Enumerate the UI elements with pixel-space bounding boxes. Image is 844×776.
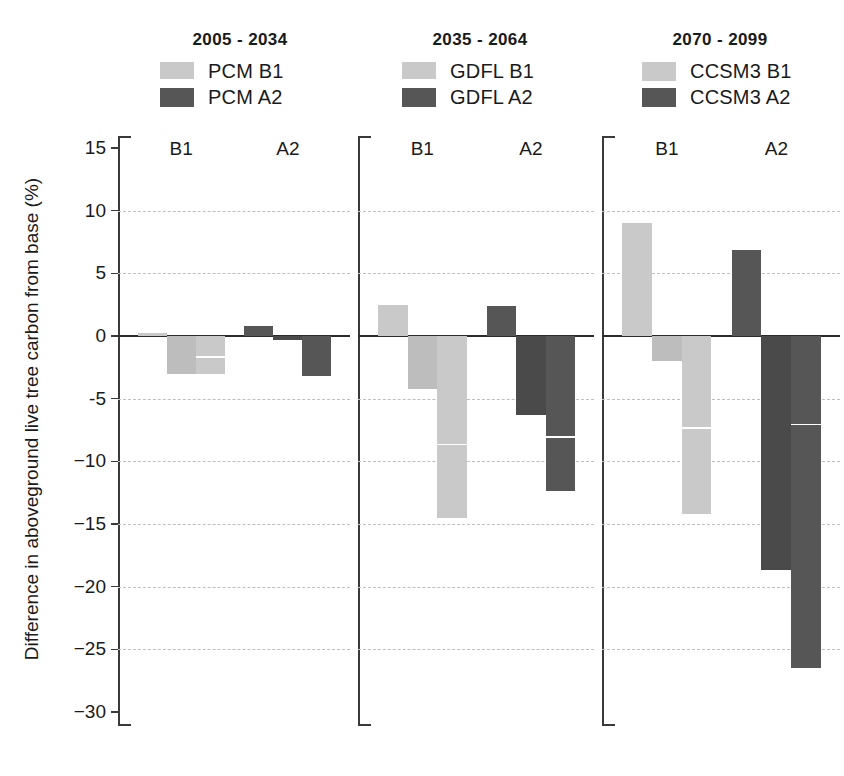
group-label-b1: B1	[655, 138, 678, 160]
y-tick-label: 0	[50, 325, 106, 347]
gridline	[118, 399, 350, 400]
y-tick-label: 15	[50, 137, 106, 159]
bar	[652, 336, 682, 361]
legend-label: GDFL B1	[450, 60, 534, 83]
y-tick-label: −10	[50, 450, 106, 472]
gridline	[358, 211, 594, 212]
bar	[302, 336, 331, 376]
legend-swatch-dark	[402, 88, 436, 107]
bar-divider	[546, 436, 576, 438]
gridline	[118, 273, 350, 274]
legend-swatch-dark	[160, 88, 194, 107]
bar	[732, 250, 762, 336]
bar-divider	[437, 444, 467, 446]
gridline	[118, 211, 350, 212]
legend-item: PCM B1	[160, 58, 284, 84]
y-tick-label: 10	[50, 200, 106, 222]
spine-cap	[602, 724, 615, 726]
legend-label: PCM B1	[208, 60, 284, 83]
bar	[244, 326, 273, 336]
gridline	[358, 524, 594, 525]
legend-item: PCM A2	[160, 84, 284, 110]
legend-panel-2: GDFL B1GDFL A2	[402, 58, 534, 110]
gridline	[118, 649, 350, 650]
legend-item: CCSM3 B1	[642, 58, 792, 84]
bar-divider	[791, 424, 821, 426]
panel-title-2: 2035 - 2064	[370, 30, 590, 50]
y-tick-label: -5	[50, 388, 106, 410]
y-tick-label: −30	[50, 701, 106, 723]
spine-cap	[118, 724, 131, 726]
legend-panel-3: CCSM3 B1CCSM3 A2	[642, 58, 792, 110]
bar	[516, 336, 546, 415]
legend-swatch-dark	[642, 88, 676, 107]
y-tick-label: −15	[50, 513, 106, 535]
legend-swatch-light	[160, 62, 194, 81]
chart-figure: 2005 - 2034PCM B1PCM A22035 - 2064GDFL B…	[0, 0, 844, 776]
legend-swatch-light	[402, 62, 436, 81]
group-label-b1: B1	[170, 138, 193, 160]
bar	[682, 336, 712, 514]
spine-cap	[602, 136, 615, 138]
legend-label: PCM A2	[208, 86, 283, 109]
legend-label: GDFL A2	[450, 86, 533, 109]
panel-spine-2	[358, 136, 360, 724]
y-axis-title: Difference in aboveground live tree carb…	[21, 139, 43, 699]
bar	[791, 336, 821, 668]
spine-cap	[358, 136, 371, 138]
panel-title-3: 2070 - 2099	[610, 30, 830, 50]
legend-panel-1: PCM B1PCM A2	[160, 58, 284, 110]
gridline	[118, 461, 350, 462]
bar	[622, 223, 652, 336]
group-label-a2: A2	[519, 138, 542, 160]
bar	[408, 336, 438, 389]
gridline	[358, 649, 594, 650]
bar	[273, 336, 302, 340]
bar	[437, 336, 467, 518]
legend-item: GDFL A2	[402, 84, 534, 110]
legend-label: CCSM3 B1	[690, 60, 792, 83]
gridline	[602, 211, 840, 212]
bar	[196, 336, 225, 374]
y-tick-label: −20	[50, 576, 106, 598]
group-label-a2: A2	[276, 138, 299, 160]
bar	[487, 306, 517, 336]
bar	[138, 333, 167, 336]
bar	[761, 336, 791, 570]
legend-label: CCSM3 A2	[690, 86, 791, 109]
spine-cap	[358, 724, 371, 726]
y-tick-label: 5	[50, 262, 106, 284]
panel-title-1: 2005 - 2034	[130, 30, 350, 50]
legend-item: GDFL B1	[402, 58, 534, 84]
y-tick-label: −25	[50, 638, 106, 660]
legend-item: CCSM3 A2	[642, 84, 792, 110]
spine-cap	[118, 136, 131, 138]
group-label-b1: B1	[411, 138, 434, 160]
legend-swatch-light	[642, 62, 676, 81]
bar	[378, 305, 408, 336]
gridline	[358, 273, 594, 274]
bar	[167, 336, 196, 374]
bar-divider	[682, 427, 712, 429]
panel-spine-1	[118, 136, 120, 724]
bar	[546, 336, 576, 491]
gridline	[118, 524, 350, 525]
bar-divider	[196, 356, 225, 358]
gridline	[358, 587, 594, 588]
group-label-a2: A2	[765, 138, 788, 160]
panel-spine-3	[602, 136, 604, 724]
gridline	[118, 587, 350, 588]
